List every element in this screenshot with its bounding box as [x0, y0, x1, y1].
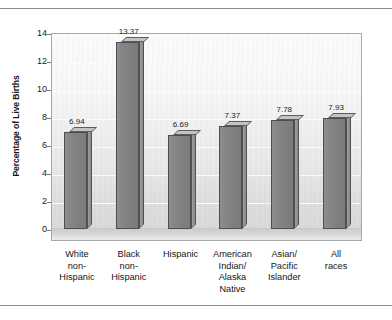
- x-category-label: Blacknon-Hispanic: [101, 249, 157, 284]
- y-tick-label: 6: [27, 141, 47, 150]
- y-tick-label: 4: [27, 169, 47, 178]
- x-category-label-line: non-: [101, 261, 157, 273]
- y-tick-label: 12: [27, 57, 47, 66]
- gridline: [52, 175, 361, 176]
- bar-front-face: [116, 42, 139, 229]
- gridline: [52, 147, 361, 148]
- bar-side-face: [346, 113, 351, 229]
- x-category-label-line: Alaska: [205, 272, 261, 284]
- y-tick-label: 8: [27, 113, 47, 122]
- x-category-label-line: non-: [49, 261, 105, 273]
- x-category-label-line: Pacific: [256, 261, 312, 273]
- x-axis-category-labels: Whitenon-HispanicBlacknon-HispanicHispan…: [51, 249, 362, 305]
- bar: [323, 118, 346, 229]
- bar-chart-figure: Percentage of Live Births 14121086420 6.…: [0, 9, 392, 304]
- gridline: [52, 63, 361, 64]
- x-category-label-line: Native: [205, 284, 261, 296]
- page-rule-bottom: [0, 305, 392, 306]
- y-axis-tick-labels: 14121086420: [20, 9, 47, 304]
- gridline: [52, 91, 361, 92]
- bar-side-face: [87, 127, 92, 229]
- x-category-label: AmericanIndian/AlaskaNative: [205, 249, 261, 295]
- bar: [116, 42, 139, 229]
- bar-value-label: 7.37: [212, 112, 252, 120]
- x-category-label: Asian/PacificIslander: [256, 249, 312, 284]
- bar-front-face: [219, 126, 242, 229]
- bar: [168, 135, 191, 229]
- x-category-label-line: Hispanic: [153, 249, 209, 261]
- x-category-label-line: Black: [101, 249, 157, 261]
- x-category-label-line: Asian/: [256, 249, 312, 261]
- x-category-label-line: Islander: [256, 272, 312, 284]
- bar-front-face: [323, 118, 346, 229]
- y-tick-label: 14: [27, 29, 47, 38]
- chart-floor-plane: [52, 228, 361, 240]
- y-tick-label: 2: [27, 197, 47, 206]
- x-category-label-line: Hispanic: [101, 272, 157, 284]
- x-category-label: Whitenon-Hispanic: [49, 249, 105, 284]
- bar: [271, 120, 294, 229]
- y-tick-label: 10: [27, 85, 47, 94]
- x-category-label-line: White: [49, 249, 105, 261]
- bar-front-face: [271, 120, 294, 229]
- gridline: [52, 203, 361, 204]
- gridline: [52, 119, 361, 120]
- bar-front-face: [64, 132, 87, 229]
- x-category-label-line: Hispanic: [49, 272, 105, 284]
- bar-front-face: [168, 135, 191, 229]
- bar-value-label: 7.93: [316, 104, 356, 112]
- bar-value-label: 6.94: [57, 118, 97, 126]
- plot-background-texture: [52, 34, 361, 240]
- x-category-label-line: American: [205, 249, 261, 261]
- bar-value-label: 6.69: [161, 121, 201, 129]
- y-tick-label: 0: [27, 225, 47, 234]
- bar-side-face: [294, 115, 299, 229]
- gridline: [52, 35, 361, 36]
- bar-value-label: 13.37: [109, 28, 149, 36]
- bar-side-face: [242, 121, 247, 229]
- x-category-label: Allraces: [308, 249, 364, 272]
- bar: [64, 132, 87, 229]
- bar-value-label: 7.78: [264, 106, 304, 114]
- bar: [219, 126, 242, 229]
- x-category-label-line: races: [308, 261, 364, 273]
- bar-side-face: [191, 131, 196, 229]
- plot-area: [51, 33, 362, 241]
- x-category-label-line: Indian/: [205, 261, 261, 273]
- x-category-label-line: All: [308, 249, 364, 261]
- bar-side-face: [139, 37, 144, 229]
- x-category-label: Hispanic: [153, 249, 209, 261]
